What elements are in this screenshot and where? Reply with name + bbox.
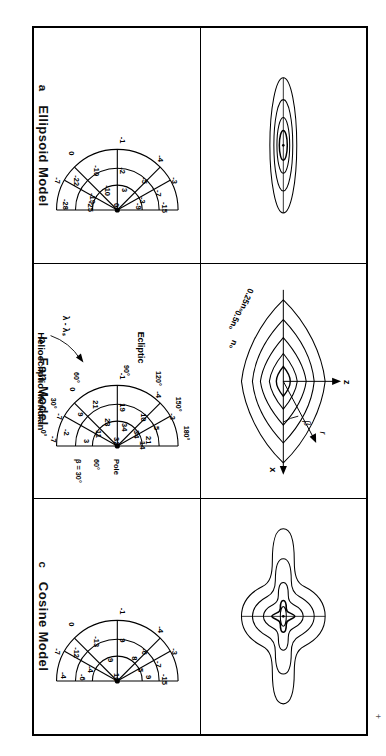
- angle-tick-120: 120°: [154, 371, 162, 386]
- beta-30-label: β = 30°: [74, 459, 83, 483]
- angle-tick-150: 150°: [174, 396, 182, 411]
- polar-value-d1: -15: [160, 202, 169, 213]
- panel-a-caption: a Ellipsoid Model: [36, 28, 51, 263]
- fan-value-1: -3: [168, 413, 177, 420]
- polar-value-c2: 3: [120, 188, 129, 192]
- angle-tick-60: 60°: [72, 372, 80, 383]
- polar-value-b5: -22: [72, 175, 81, 186]
- fan-value-11: 23: [103, 418, 112, 426]
- panel-c-contour-cell: [199, 498, 366, 735]
- cos-value-16: 5: [136, 668, 145, 672]
- panel-b-letter: b: [37, 337, 49, 344]
- cos-value-4: -7: [52, 648, 61, 655]
- cosine-contour-plot: [200, 499, 365, 734]
- panel-a-contour-cell: [199, 27, 366, 264]
- fan-value-2: -4: [154, 391, 163, 399]
- origin-dot: [282, 615, 285, 618]
- fan-value-3: 0: [68, 387, 77, 391]
- fan-value-16: 14: [138, 441, 147, 450]
- polar-value-a3: 0: [66, 152, 75, 156]
- cos-value-17: 9: [144, 675, 153, 679]
- panel-b-caption: b Fan Model: [36, 264, 51, 499]
- cos-value-11: 9: [106, 658, 115, 662]
- r-vector-line: [283, 381, 314, 439]
- cos-value-8: -12: [72, 647, 81, 658]
- cos-value-9: 9: [118, 638, 127, 642]
- cos-value-6: -6: [140, 648, 149, 655]
- beta-angle-arc: [283, 416, 298, 422]
- z-axis-arrowhead: [332, 377, 341, 384]
- cosine-polar-plot: -1 -3 -4 0 -7 -7 -6 -13 -12 9 8 9 -4 -6: [34, 499, 199, 734]
- polar-value-a1: -3: [170, 177, 179, 184]
- polar-value-a2: -4: [156, 156, 165, 164]
- polar-value-left: -1: [118, 608, 127, 615]
- polar-value-d4: -28: [60, 199, 69, 210]
- figure-plate-rotator: +: [0, 0, 386, 756]
- polar-value-c3: -10: [103, 185, 112, 196]
- contour-label-0p5n0: 0.5n₀: [227, 309, 244, 332]
- cos-value-1: -3: [170, 648, 179, 655]
- z-axis-label: z: [342, 380, 352, 385]
- panel-c-polar-cell: -1 -3 -4 0 -7 -7 -6 -13 -12 9 8 9 -4 -6: [33, 498, 200, 735]
- cos-value-13: -6: [78, 674, 87, 681]
- panel-a-polar-cell: -1 -3 -4 0 -7 -7 -5 -2 -10 -22 -3 3 -10 …: [33, 27, 200, 264]
- panel-grid: z x r β 0.25n₀ 0.5n₀ n₀: [32, 26, 368, 736]
- fan-value-5: 5: [152, 426, 161, 430]
- polar-value-left: -1: [118, 372, 127, 379]
- cos-value-10: 8: [130, 656, 139, 660]
- x-axis-arrowhead: [279, 466, 286, 475]
- panel-a-letter: a: [37, 85, 49, 91]
- panel-c-title: Cosine Model: [36, 582, 51, 671]
- fan-value-17: 11: [94, 430, 103, 438]
- fan-value-7: 21: [91, 400, 100, 408]
- fan-value-8: -2: [61, 429, 70, 436]
- cos-value-18: -15: [160, 674, 169, 685]
- fan-value-18: 3: [82, 439, 91, 443]
- cos-value-5: -7: [154, 661, 163, 668]
- cos-value-12: -4: [86, 666, 95, 674]
- beta-60-label: 60°: [92, 459, 101, 470]
- origin-dot: [282, 144, 285, 147]
- cos-value-3: 0: [66, 622, 75, 626]
- polar-value-d3: -25: [86, 201, 95, 212]
- fan-value-19: 32: [112, 437, 121, 445]
- cos-value-14: -4: [58, 672, 67, 680]
- panel-b-polar-cell: 180° 150° 120° 90° 60° 30° 0° -1 -3 -4 0…: [33, 263, 200, 500]
- polar-value-d2: -9: [134, 203, 143, 210]
- x-axis-label: x: [268, 467, 278, 473]
- ellipsoid-polar-plot: -1 -3 -4 0 -7 -7 -5 -2 -10 -22 -3 3 -10 …: [34, 28, 199, 263]
- panel-b-contour-cell: z x r β 0.25n₀ 0.5n₀ n₀: [199, 263, 366, 500]
- pole-label: Pole: [112, 459, 121, 475]
- corner-registration-mark: +: [373, 712, 382, 721]
- ellipsoid-contour-plot: [200, 28, 365, 263]
- contour-label-n0: n₀: [227, 338, 240, 350]
- panel-a-title: Ellipsoid Model: [36, 105, 51, 206]
- polar-value-b1: -7: [154, 190, 163, 197]
- panel-c-caption: c Cosine Model: [36, 499, 51, 734]
- fan-contour-plot: z x r β 0.25n₀ 0.5n₀ n₀: [200, 264, 365, 499]
- elongation-arc: [50, 335, 80, 359]
- fan-value-4: -7: [54, 413, 63, 420]
- fan-value-14: 34: [132, 430, 141, 439]
- r-vector-arrowhead: [309, 433, 316, 443]
- polar-value-a4: -7: [52, 177, 61, 184]
- polar-value-b4: -10: [92, 166, 101, 177]
- panel-c-letter: c: [37, 561, 49, 567]
- ecliptic-label: Ecliptic: [136, 331, 146, 363]
- cos-value-7: -13: [92, 636, 101, 647]
- fan-value-12: 9: [76, 412, 85, 416]
- fan-value-13: 34: [120, 423, 129, 432]
- angle-tick-180: 180°: [182, 425, 190, 440]
- fan-value-6: 10: [139, 413, 148, 421]
- r-label: r: [318, 431, 328, 435]
- cos-value-15: 10: [112, 673, 121, 681]
- fan-value-10: 19: [118, 403, 127, 411]
- fan-polar-plot: 180° 150° 120° 90° 60° 30° 0° -1 -3 -4 0…: [34, 264, 199, 499]
- elongation-label: λ - λₛ: [60, 315, 70, 335]
- polar-value-d5: 0: [112, 203, 121, 207]
- cos-value-2: -4: [156, 626, 165, 634]
- polar-value-left: -1: [118, 137, 127, 144]
- polar-origin-dot: [114, 208, 119, 213]
- panel-b-title: Fan Model: [36, 358, 51, 426]
- polar-value-b3: -2: [118, 168, 127, 175]
